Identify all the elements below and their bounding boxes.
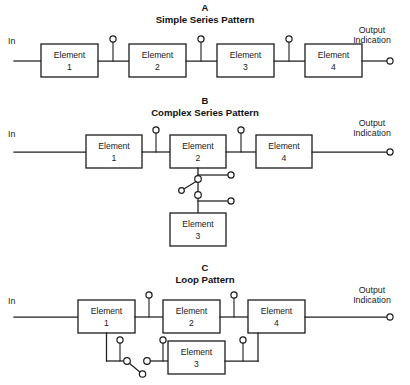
panel-a-block-3-number: 3 (243, 62, 248, 72)
diagram-canvas: A Simple Series Pattern In Output Indica… (0, 0, 410, 385)
panel-c-switch-pivot-circle (139, 371, 145, 377)
panel-c-letter: C (202, 262, 209, 273)
panel-a-input-label: In (8, 36, 15, 46)
panel-b-switch-lower-contact (195, 192, 202, 199)
panel-c: C Loop Pattern In Output Indication Elem… (8, 262, 393, 377)
panel-b-switch-pivot-circle (179, 188, 185, 194)
panel-c-testpoint-3-circle (117, 337, 123, 343)
panel-b-branch-tap-1-terminal (228, 172, 234, 178)
panel-a-block-4-number: 4 (331, 62, 336, 72)
reliability-diagram-figure: A Simple Series Pattern In Output Indica… (0, 0, 410, 385)
panel-b: B Complex Series Pattern In Output Indic… (8, 95, 393, 246)
panel-b-block-1-name: Element (98, 141, 130, 151)
panel-a-testpoint-1-circle (110, 36, 116, 42)
panel-c-block-4-number: 4 (274, 318, 279, 328)
panel-a-block-2-number: 2 (155, 62, 160, 72)
panel-c-testpoint-1-circle (146, 292, 152, 298)
panel-b-output-label-line1: Output (359, 118, 386, 128)
panel-b-block-2-name: Element (182, 141, 214, 151)
panel-a-block-2-name: Element (142, 50, 174, 60)
panel-c-block-4-name: Element (261, 306, 293, 316)
panel-c-block-2-number: 2 (189, 318, 194, 328)
panel-c-switch-arm (130, 364, 141, 373)
panel-c-switch-right-contact (144, 358, 151, 365)
panel-a-testpoint-2-circle (198, 36, 204, 42)
panel-c-testpoint-4-circle (160, 337, 166, 343)
panel-c-input-label: In (8, 296, 15, 306)
panel-c-block-1-name: Element (91, 306, 123, 316)
panel-a-output-label-line1: Output (359, 25, 386, 35)
panel-a-block-1-number: 1 (67, 62, 72, 72)
panel-b-block-3-name: Element (182, 219, 214, 229)
panel-b-block-4-number: 4 (282, 153, 287, 163)
panel-c-output-terminal (387, 314, 393, 320)
panel-c-block-3-number: 3 (194, 359, 199, 369)
panel-c-block-3-name: Element (181, 347, 213, 357)
panel-c-testpoint-2-circle (231, 292, 237, 298)
panel-b-branch-tap-2-terminal (228, 198, 234, 204)
panel-c-output-label-line2: Indication (353, 295, 391, 305)
panel-b-testpoint-1-circle (153, 127, 159, 133)
panel-a-block-1-name: Element (54, 50, 86, 60)
panel-b-block-1-number: 1 (112, 153, 117, 163)
panel-c-output-label-line1: Output (359, 285, 386, 295)
panel-b-letter: B (202, 95, 209, 106)
panel-a-letter: A (202, 2, 209, 13)
panel-b-title: Complex Series Pattern (151, 107, 259, 118)
panel-c-block-1-number: 1 (104, 318, 109, 328)
panel-b-block-3-number: 3 (196, 231, 201, 241)
panel-c-testpoint-5-circle (240, 337, 246, 343)
panel-a-block-4-name: Element (318, 50, 350, 60)
panel-b-switch-arm (184, 182, 196, 190)
panel-b-output-label-line2: Indication (353, 128, 391, 138)
panel-b-output-terminal (387, 149, 393, 155)
panel-a-testpoint-3-circle (286, 36, 292, 42)
panel-a-output-terminal (387, 58, 393, 64)
panel-b-block-4-name: Element (268, 141, 300, 151)
panel-b-block-2-number: 2 (196, 153, 201, 163)
panel-b-input-label: In (8, 129, 15, 139)
panel-c-title: Loop Pattern (175, 274, 234, 285)
panel-b-testpoint-2-circle (238, 127, 244, 133)
panel-c-block-2-name: Element (176, 306, 208, 316)
panel-a-block-3-name: Element (230, 50, 262, 60)
panel-a: A Simple Series Pattern In Output Indica… (8, 2, 393, 77)
panel-a-title: Simple Series Pattern (156, 14, 255, 25)
